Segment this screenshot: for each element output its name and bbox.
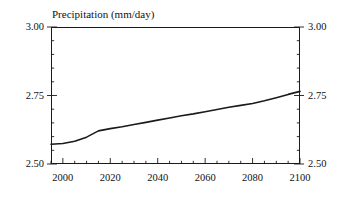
x-axis-label: 2000: [43, 172, 83, 183]
x-axis-label: 2060: [185, 172, 225, 183]
y-axis-label-right: 2.75: [308, 90, 342, 101]
plot-area: [51, 27, 300, 164]
y-axis-label-right: 2.50: [308, 158, 342, 169]
x-axis-label: 2100: [280, 172, 320, 183]
y-axis-label-left: 2.75: [8, 90, 44, 101]
y-axis-label-right: 3.00: [308, 21, 342, 32]
precipitation-line-chart: Precipitation (mm/day) 2.502.502.752.753…: [0, 0, 342, 204]
x-axis-label: 2080: [233, 172, 273, 183]
chart-title: Precipitation (mm/day): [52, 7, 154, 21]
y-axis-label-left: 2.50: [8, 158, 44, 169]
x-axis-label: 2020: [90, 172, 130, 183]
y-axis-label-left: 3.00: [8, 21, 44, 32]
x-axis-label: 2040: [138, 172, 178, 183]
